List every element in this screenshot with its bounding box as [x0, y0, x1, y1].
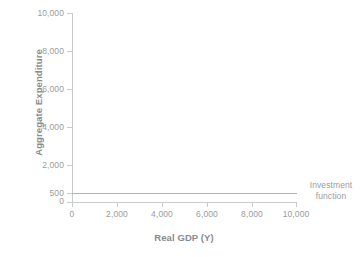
y-tick-label-2000: 2,000 — [42, 160, 64, 170]
investment-function-line — [72, 193, 297, 194]
y-tick-2000 — [67, 165, 72, 166]
y-tick-label-0: 0 — [59, 196, 64, 206]
x-tick-0 — [72, 202, 73, 207]
x-tick-4000 — [162, 202, 163, 207]
x-tick-8000 — [252, 202, 253, 207]
y-tick-label-8000: 8,000 — [42, 46, 64, 56]
x-axis-line — [72, 202, 297, 203]
investment-function-annotation: Investment function — [300, 180, 362, 202]
y-tick-label-6000: 6,000 — [42, 84, 64, 94]
annotation-line-2: function — [300, 191, 362, 202]
y-tick-8000 — [67, 51, 72, 52]
y-tick-label-10000: 10,000 — [37, 8, 64, 18]
y-tick-10000 — [67, 13, 72, 14]
y-tick-6000 — [67, 89, 72, 90]
y-axis-line — [72, 13, 73, 203]
y-tick-label-4000: 4,000 — [42, 122, 64, 132]
x-tick-label-10000: 10,000 — [266, 209, 326, 219]
x-tick-6000 — [207, 202, 208, 207]
chart-figure: Aggregate Expenditure 10,000 8,000 6,000… — [0, 0, 363, 257]
x-tick-10000 — [296, 202, 297, 207]
y-tick-4000 — [67, 127, 72, 128]
annotation-line-1: Investment — [300, 180, 362, 191]
x-axis-title: Real GDP (Y) — [72, 232, 296, 243]
x-tick-2000 — [117, 202, 118, 207]
